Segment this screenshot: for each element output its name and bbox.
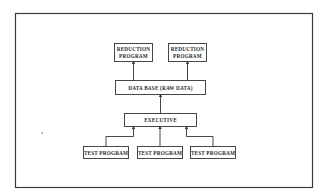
test-program-center-box: TEST PROGRAM (138, 147, 183, 159)
reduction-right-line1: REDUCTION (171, 46, 205, 52)
diagram-canvas: REDUCTION PROGRAM REDUCTION PROGRAM DATA… (0, 0, 325, 196)
reduction-left-line2: PROGRAM (119, 53, 148, 59)
test-right-label: TEST PROGRAM (191, 150, 235, 156)
executive-label: EXECUTIVE (144, 117, 177, 123)
test-left-label: TEST PROGRAM (84, 150, 128, 156)
connector-test-right-to-executive (187, 128, 214, 147)
outer-frame (16, 14, 313, 188)
reduction-program-right-box: REDUCTION PROGRAM (169, 44, 207, 62)
test-program-right-box: TEST PROGRAM (191, 147, 236, 159)
data-base-label: DATA BASE (RAW DATA) (128, 85, 193, 92)
reduction-left-line1: REDUCTION (117, 46, 151, 52)
reduction-right-line2: PROGRAM (173, 53, 202, 59)
test-program-left-box: TEST PROGRAM (84, 147, 129, 159)
test-center-label: TEST PROGRAM (138, 150, 182, 156)
reduction-program-left-box: REDUCTION PROGRAM (115, 44, 153, 62)
executive-box: EXECUTIVE (125, 114, 197, 127)
scan-speck (42, 133, 43, 135)
data-base-box: DATA BASE (RAW DATA) (116, 81, 206, 95)
connector-test-left-to-executive (106, 128, 134, 147)
